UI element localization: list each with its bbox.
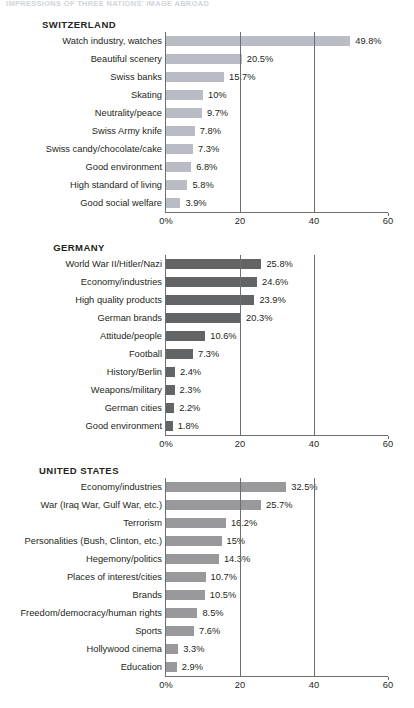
category-label: Education [121,658,162,676]
bar-value-label: 7.6% [199,622,220,640]
bar-value-label: 10.6% [210,327,236,345]
bar-row: German brands20.3% [0,309,414,327]
x-tick-label-0: 0% [159,438,172,450]
bar-row: Beautiful scenery20.5% [0,50,414,68]
plot-area: Economy/industries32.5%War (Iraq War, Gu… [0,478,414,677]
gridline-40 [314,32,315,212]
bar [166,590,205,600]
bar-rows: Watch industry, watches49.8%Beautiful sc… [0,32,414,212]
bar-value-label: 20.3% [246,309,272,327]
category-label: Skating [131,86,162,104]
category-label: Hegemony/politics [86,550,162,568]
bar [166,608,197,618]
bar-value-label: 15% [227,532,246,550]
x-tick-label-60: 60 [383,679,393,691]
bar-row: German cities2.2% [0,399,414,417]
bar-value-label: 2.2% [179,399,200,417]
bar-value-label: 23.9% [259,291,285,309]
bar-row: Economy/industries32.5% [0,478,414,496]
running-head: IMPRESSIONS OF THREE NATIONS' IMAGE ABRO… [6,0,306,8]
category-label: High quality products [75,291,162,309]
bar [166,349,193,359]
category-label: Watch industry, watches [62,32,162,50]
bar [166,126,195,136]
bar-value-label: 2.4% [180,363,201,381]
category-label: Brands [133,586,162,604]
bar-row: Brands10.5% [0,586,414,604]
bar-row: Football7.3% [0,345,414,363]
bar [166,162,191,172]
bar-row: Swiss banks15.7% [0,68,414,86]
bar [166,385,175,395]
x-tick-label-0: 0% [159,679,172,691]
bar [166,518,226,528]
bar-row: Terrorism16.2% [0,514,414,532]
bar-value-label: 15.7% [229,68,255,86]
x-tick-label-20: 20 [235,215,245,227]
x-tick-label-0: 0% [159,215,172,227]
bar-value-label: 10% [208,86,227,104]
x-tick-label-20: 20 [235,438,245,450]
bar-row: Places of interest/cities10.7% [0,568,414,586]
category-label: Beautiful scenery [91,50,162,68]
category-label: Swiss candy/chocolate/cake [46,140,162,158]
bar-row: Weapons/military2.3% [0,381,414,399]
category-label: Swiss Army knife [92,122,162,140]
category-label: War (Iraq War, Gulf War, etc.) [41,496,162,514]
x-axis-labels: 0%204060 [0,436,414,452]
bar-value-label: 1.8% [178,417,199,435]
category-label: Good social welfare [80,194,162,212]
bar-row: Neutrality/peace9.7% [0,104,414,122]
gridline-20 [240,255,241,435]
bar-row: Swiss Army knife7.8% [0,122,414,140]
plot-area: Watch industry, watches49.8%Beautiful sc… [0,32,414,213]
chart-panels: SWITZERLANDWatch industry, watches49.8%B… [0,18,414,693]
category-label: German cities [105,399,162,417]
category-label: German brands [97,309,162,327]
bar [166,554,219,564]
bar [166,421,173,431]
bar [166,367,175,377]
bar-row: Swiss candy/chocolate/cake7.3% [0,140,414,158]
bar-row: Good environment1.8% [0,417,414,435]
bar [166,54,242,64]
bar-value-label: 24.6% [262,273,288,291]
bar [166,331,205,341]
x-tick-label-60: 60 [383,215,393,227]
bar [166,72,224,82]
bar-value-label: 7.3% [198,345,219,363]
x-tick-label-40: 40 [309,215,319,227]
bar-row: Good environment6.8% [0,158,414,176]
bar-row: Personalities (Bush, Clinton, etc.)15% [0,532,414,550]
bar-value-label: 10.5% [210,586,236,604]
bar-value-label: 8.5% [202,604,223,622]
x-tick-label-40: 40 [309,438,319,450]
bar-row: World War II/Hitler/Nazi25.8% [0,255,414,273]
category-label: Economy/industries [81,478,162,496]
category-label: Places of interest/cities [67,568,162,586]
category-label: Hollywood cinema [87,640,162,658]
bar [166,482,286,492]
bar [166,313,241,323]
bar-value-label: 9.7% [207,104,228,122]
chart-panel-germany: GERMANYWorld War II/Hitler/Nazi25.8%Econ… [0,241,414,452]
bar-value-label: 10.7% [211,568,237,586]
bar-value-label: 20.5% [247,50,273,68]
bar-value-label: 5.8% [192,176,213,194]
bar-row: Sports7.6% [0,622,414,640]
gridline-40 [314,478,315,676]
category-label: Terrorism [123,514,162,532]
bar-value-label: 2.9% [182,658,203,676]
bar [166,500,261,510]
bar [166,259,261,269]
bar [166,198,180,208]
bar [166,144,193,154]
category-label: History/Berlin [107,363,162,381]
chart-panel-united-states: UNITED STATESEconomy/industries32.5%War … [0,464,414,693]
x-tick-label-40: 40 [309,679,319,691]
bar-row: Education2.9% [0,658,414,676]
bar [166,90,203,100]
plot-area: World War II/Hitler/Nazi25.8%Economy/ind… [0,255,414,436]
bar [166,572,206,582]
x-tick-label-60: 60 [383,438,393,450]
